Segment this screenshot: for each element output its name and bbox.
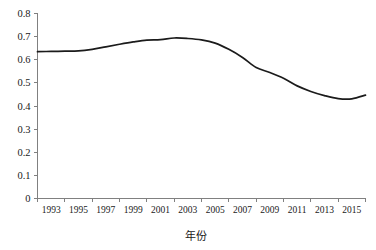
x-axis-tick-label: 1993 [42, 205, 61, 215]
x-axis-tick-label: 2015 [342, 205, 361, 215]
chart-canvas: 00.10.20.30.40.50.60.70.8 19931995199719… [0, 0, 376, 250]
y-axis-tick-label: 0.1 [17, 170, 30, 181]
y-axis-tick-label: 0.6 [17, 54, 30, 65]
x-axis-ticks [38, 199, 366, 203]
x-axis-tick-label: 2009 [260, 205, 279, 215]
x-axis-tick-label: 2005 [206, 205, 225, 215]
axes [34, 14, 366, 203]
x-axis-tick-label: 2007 [233, 205, 252, 215]
y-axis-tick-label: 0.5 [17, 77, 30, 88]
y-axis-tick-label: 0 [25, 193, 30, 204]
x-axis-title: 年份 [185, 229, 207, 242]
y-axis-tick-label: 0.2 [17, 147, 30, 158]
y-axis-tick-label: 0.3 [17, 124, 30, 135]
y-axis-tick-label: 0.8 [17, 8, 30, 19]
x-axis-tick-label: 1997 [96, 205, 115, 215]
y-axis-tick-label: 0.4 [17, 101, 31, 112]
x-axis-tick-labels: 1993199519971999200120032005200720092011… [42, 205, 362, 215]
x-axis-tick-label: 1995 [69, 205, 88, 215]
x-axis-tick-label: 2003 [178, 205, 197, 215]
y-axis-ticks [34, 14, 38, 199]
y-axis-tick-labels: 00.10.20.30.40.50.60.70.8 [17, 8, 31, 204]
x-axis-tick-label: 2011 [288, 205, 307, 215]
line-series-path [38, 38, 366, 99]
x-axis-tick-label: 1999 [124, 205, 143, 215]
y-axis-tick-label: 0.7 [17, 31, 30, 42]
x-axis-tick-label: 2001 [151, 205, 170, 215]
data-series [38, 38, 366, 99]
line-chart: 00.10.20.30.40.50.60.70.8 19931995199719… [0, 0, 376, 250]
x-axis-tick-label: 2013 [315, 205, 334, 215]
